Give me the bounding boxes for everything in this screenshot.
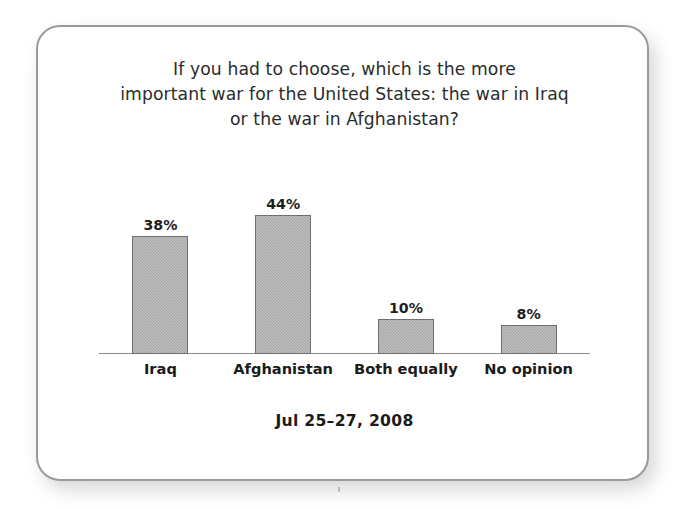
plot-area: 38% 44% 10% 8% Iraq Afghanis [99,177,590,379]
chart-card: If you had to choose, which is the more … [36,25,649,481]
bar-value-no-opinion: 8% [517,306,541,322]
bar-value-iraq: 38% [143,217,177,233]
bar-value-both-equally: 10% [389,300,423,316]
chart-title-line-2: important war for the United States: the… [38,82,651,107]
scan-artifact-speck [338,487,340,492]
survey-date-caption: Jul 25–27, 2008 [38,412,651,430]
bar-afghanistan[interactable] [255,215,311,354]
x-label-no-opinion: No opinion [467,360,590,377]
chart-title: If you had to choose, which is the more … [38,57,651,132]
x-label-iraq: Iraq [99,360,222,377]
bar-value-afghanistan: 44% [266,196,300,212]
chart-screenshot: If you had to choose, which is the more … [0,0,678,509]
bar-iraq[interactable] [132,236,188,354]
chart-title-line-3: or the war in Afghanistan? [38,107,651,132]
chart-title-line-1: If you had to choose, which is the more [38,57,651,82]
x-label-both-equally: Both equally [345,360,468,377]
bar-no-opinion[interactable] [501,325,557,354]
x-label-afghanistan: Afghanistan [222,360,345,377]
x-axis-tick-labels: Iraq Afghanistan Both equally No opinion [99,354,590,379]
bar-both-equally[interactable] [378,319,434,354]
